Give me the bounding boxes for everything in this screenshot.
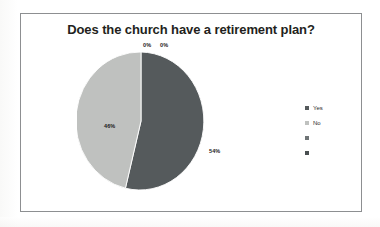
- legend-swatch-icon: [305, 121, 309, 125]
- legend-item-blank-1[interactable]: [305, 130, 357, 145]
- chart-legend: Yes No: [305, 100, 357, 160]
- scan-edge-shading-left: [0, 0, 18, 227]
- pie-label-zero-b: 0%: [160, 42, 168, 48]
- pie-label-yes: 54%: [209, 148, 220, 154]
- chart-container: Does the church have a retirement plan? …: [20, 13, 362, 212]
- legend-item-no[interactable]: No: [305, 115, 357, 130]
- scan-edge-shading-bottom: [0, 217, 380, 227]
- legend-item-blank-2[interactable]: [305, 145, 357, 160]
- legend-swatch-icon: [305, 106, 309, 110]
- legend-swatch-icon: [305, 136, 309, 140]
- pie-label-zero-a: 0%: [143, 42, 151, 48]
- pie-chart-graphic: [77, 52, 205, 190]
- pie-label-no: 46%: [104, 123, 115, 129]
- legend-label: No: [313, 120, 321, 126]
- legend-swatch-icon: [305, 151, 309, 155]
- legend-item-yes[interactable]: Yes: [305, 100, 357, 115]
- legend-label: Yes: [313, 105, 323, 111]
- plot-area: 0% 0% 46% 54% Yes No: [21, 14, 363, 213]
